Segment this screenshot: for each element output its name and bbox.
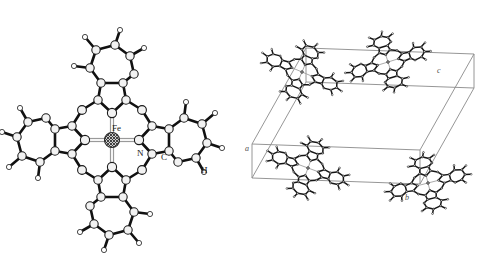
hydrogen-atom [421,210,423,212]
label-n: N [137,148,144,158]
carbon-atom [18,152,26,160]
carbon-atom [430,170,432,172]
hydrogen-atom [424,42,426,44]
molecule-panel: Fe N C H [0,0,240,262]
crystal-structure-figure: Fe N C H abc [0,0,481,262]
hydrogen-atom [295,46,297,48]
hydrogen-atom [293,196,295,198]
carbon-atom [321,176,323,178]
carbon-atom [374,39,376,41]
carbon-atom [306,184,308,186]
carbon-atom [286,85,288,87]
carbon-atom [380,35,382,37]
carbon-atom [336,81,338,83]
bond [298,182,306,185]
carbon-atom [450,179,452,181]
carbon-atom [97,193,105,201]
hydrogen-atom [341,90,343,92]
hydrogen-atom [445,207,447,209]
carbon-atom [316,158,318,160]
hydrogen-atom [392,33,394,35]
carbon-atom [342,181,344,183]
hydrogen-atom [219,145,224,150]
carbon-atom [419,168,421,170]
nitrogen-atom [441,187,443,189]
carbon-atom [414,59,416,61]
nitrogen-atom [293,171,295,173]
carbon-atom [401,195,403,197]
nitrogen-atom [78,166,87,175]
carbon-atom [394,87,396,89]
carbon-atom [401,53,403,55]
hydrogen-atom [362,80,364,82]
hydrogen-atom [260,62,262,64]
nitrogen-atom [297,163,299,165]
hydrogen-atom [147,211,152,216]
hydrogen-atom [82,34,87,39]
hydrogen-atom [266,160,268,162]
carbon-atom [314,81,316,83]
nitrogen-atom [304,64,306,66]
carbon-atom [435,196,437,198]
carbon-atom [148,122,156,130]
carbon-atom [272,53,274,55]
carbon-atom [453,169,455,171]
carbon-atom [292,187,294,189]
carbon-atom [68,150,76,158]
carbon-atom [444,182,446,184]
carbon-atom [272,159,274,161]
carbon-atom [390,191,392,193]
carbon-atom [303,54,305,56]
nitrogen-atom [134,135,143,144]
hydrogen-atom [35,175,40,180]
hydrogen-atom [407,166,409,168]
hydrogen-atom [279,91,281,93]
hydrogen-atom [321,138,323,140]
carbon-atom [317,57,319,59]
carbon-atom [285,91,287,93]
carbon-atom [431,162,433,164]
carbon-atom [461,169,463,171]
carbon-atom [312,58,314,60]
iron-atom-circle [105,133,120,148]
bond [428,197,437,199]
carbon-atom [111,41,119,49]
nitrogen-atom [291,67,293,69]
carbon-atom [426,207,428,209]
iron-atom-circle [427,182,430,185]
iron-atom-circle [387,61,390,64]
carbon-atom [322,152,324,154]
hydrogen-atom [101,247,106,252]
carbon-atom [414,165,416,167]
hydrogen-atom [212,110,217,115]
carbon-atom [322,147,324,149]
nitrogen-atom [396,50,398,52]
carbon-atom [390,41,392,43]
carbon-atom [401,78,403,80]
carbon-atom [13,133,21,141]
hydrogen-atom [389,183,391,185]
carbon-atom [68,122,76,130]
carbon-atom [400,183,402,185]
nitrogen-atom [401,66,403,68]
carbon-atom [330,182,332,184]
carbon-atom [301,94,303,96]
bond [309,151,317,154]
packing-panel: abc [240,0,481,262]
hydrogen-atom [406,85,408,87]
bond [292,85,300,88]
nitrogen-atom [437,171,439,173]
hydrogen-atom [77,229,82,234]
carbon-atom [94,176,102,184]
packing-diagram: abc [240,0,481,262]
hydrogen-atom [307,97,309,99]
carbon-atom [97,79,105,87]
carbon-atom [119,193,127,201]
hydrogen-atom [465,182,467,184]
hydrogen-atom [314,192,316,194]
carbon-atom [310,141,312,143]
carbon-atom [272,66,274,68]
hydrogen-atom [328,147,330,149]
nitrogen-atom [138,166,147,175]
hydrogen-atom [425,59,427,61]
